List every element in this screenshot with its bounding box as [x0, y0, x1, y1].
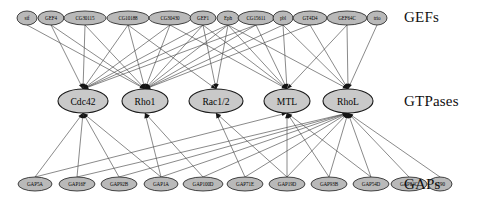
- gtpase-node[interactable]: MTL: [264, 89, 310, 113]
- gef-node[interactable]: Eph: [217, 11, 239, 25]
- gef-node[interactable]: pbl: [273, 11, 293, 25]
- gap-node-label: GAP54D: [362, 181, 381, 187]
- gef-node[interactable]: GEF64C: [327, 11, 367, 25]
- gef-node[interactable]: CG10188: [107, 11, 149, 25]
- gap-node[interactable]: GAP1A: [144, 177, 178, 191]
- gtpase-node-label: Rho1: [135, 96, 156, 107]
- network-edge: [348, 113, 371, 177]
- network-edge: [77, 113, 83, 177]
- gap-node[interactable]: GAP19D: [269, 177, 305, 191]
- network-edge: [228, 25, 287, 89]
- gap-node[interactable]: GAP5A: [18, 177, 52, 191]
- gef-node-label: CG10188: [118, 15, 138, 21]
- gtpase-node[interactable]: RhoL: [323, 89, 373, 113]
- gtpase-node[interactable]: Cdc42: [58, 89, 108, 113]
- network-edge: [77, 113, 348, 177]
- network-edge: [216, 113, 287, 177]
- network-edge: [35, 113, 83, 177]
- gtpase-node[interactable]: Rho1: [122, 89, 168, 113]
- gap-node[interactable]: GAP71E: [227, 177, 263, 191]
- gef-node[interactable]: GT4D4: [293, 11, 327, 25]
- network-edge: [51, 25, 145, 89]
- gef-node[interactable]: GEF4: [38, 11, 64, 25]
- gef-gtpase-edge-group: [27, 25, 377, 89]
- row-label-gtpases: GTPases: [404, 93, 459, 110]
- gap-node-label: GAP100D: [193, 181, 214, 187]
- gap-node-group: GAP5AGAP16FGAP92BGAP1AGAP100DGAP71EGAP19…: [18, 177, 452, 191]
- gtpase-node-label: Rac1/2: [202, 96, 229, 107]
- gef-node[interactable]: trio: [367, 11, 387, 25]
- network-edge: [216, 113, 245, 177]
- network-edge: [216, 25, 228, 89]
- gef-node-label: sif: [25, 15, 30, 21]
- network-edge: [348, 25, 377, 89]
- network-edge: [256, 25, 287, 89]
- network-edge: [83, 113, 119, 177]
- network-edge: [170, 25, 287, 89]
- gef-node-label: GEF4: [45, 15, 57, 21]
- network-edge: [348, 113, 409, 177]
- network-edge: [287, 113, 371, 177]
- gef-node-group: sifGEF4CG30115CG10188CG30430GEF1EphCG156…: [17, 11, 387, 25]
- network-edge: [35, 113, 287, 177]
- network-edge: [83, 113, 161, 177]
- network-edge: [83, 25, 228, 89]
- gap-node[interactable]: GAP16F: [59, 177, 95, 191]
- network-edge: [128, 25, 216, 89]
- network-edge: [145, 25, 203, 89]
- network-edge: [83, 25, 203, 89]
- row-label-gefs: GEFs: [404, 9, 439, 26]
- gef-node[interactable]: CG30115: [64, 11, 106, 25]
- gef-node-label: trio: [374, 15, 381, 21]
- gap-node[interactable]: GAP54D: [353, 177, 389, 191]
- network-edge: [348, 113, 440, 177]
- gtpase-node-label: RhoL: [337, 96, 359, 107]
- gap-node-label: GAP16F: [68, 181, 86, 187]
- gef-node[interactable]: CG15611: [238, 11, 274, 25]
- network-edge: [85, 25, 145, 89]
- row-label-gaps: GAPs: [404, 176, 441, 193]
- gap-node-label: GAP93B: [320, 181, 339, 187]
- network-edge: [83, 25, 85, 89]
- gap-node-label: GAP71E: [236, 181, 254, 187]
- network-edge: [161, 113, 348, 177]
- gef-node-label: CG30430: [160, 15, 180, 21]
- gap-gtpase-edge-group: [35, 113, 440, 177]
- network-edge: [145, 25, 256, 89]
- gef-node[interactable]: CG30430: [149, 11, 191, 25]
- gef-node-label: pbl: [280, 15, 287, 21]
- gap-node-label: GAP92B: [110, 181, 129, 187]
- gap-node-label: GAP5A: [27, 181, 43, 187]
- gef-arrowhead-group: [79, 83, 352, 89]
- gtpase-node-group: Cdc42Rho1Rac1/2MTLRhoL: [58, 89, 373, 113]
- gef-node[interactable]: GEF1: [190, 11, 216, 25]
- network-edge: [347, 25, 348, 89]
- gtpase-node[interactable]: Rac1/2: [189, 89, 243, 113]
- network-edge: [51, 25, 83, 89]
- gef-node-label: GT4D4: [302, 15, 318, 21]
- gef-node-label: Eph: [224, 15, 232, 21]
- gef-node-label: GEF1: [197, 15, 209, 21]
- network-edge: [203, 113, 348, 177]
- gap-node[interactable]: GAP100D: [183, 177, 223, 191]
- gtpase-node-label: MTL: [277, 96, 297, 107]
- edge-arrowhead: [348, 83, 352, 89]
- gap-node[interactable]: GAP93B: [311, 177, 347, 191]
- gap-node-label: GAP19D: [278, 181, 297, 187]
- gef-node-label: CG15611: [247, 15, 266, 21]
- gap-node-label: GAP1A: [153, 181, 169, 187]
- gap-node[interactable]: GAP92B: [101, 177, 137, 191]
- network-edge: [27, 25, 145, 89]
- gtpase-node-label: Cdc42: [70, 96, 95, 107]
- network-diagram-figure: sifGEF4CG30115CG10188CG30430GEF1EphCG156…: [0, 0, 483, 205]
- gef-node-label: CG30115: [76, 15, 95, 21]
- gef-node-label: GEF64C: [338, 15, 356, 21]
- gef-node[interactable]: sif: [17, 11, 37, 25]
- network-edge: [228, 25, 348, 89]
